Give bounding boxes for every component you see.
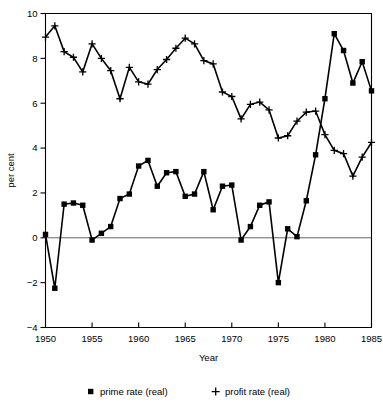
- data-point-square: [71, 200, 76, 205]
- y-tick-label: −2: [27, 277, 38, 288]
- data-point-square: [80, 203, 85, 208]
- data-point-square: [117, 196, 122, 201]
- data-point-square: [238, 237, 243, 242]
- data-point-square: [155, 184, 160, 189]
- y-axis-title: per cent: [5, 153, 16, 188]
- data-point-square: [248, 224, 253, 229]
- data-point-square: [183, 194, 188, 199]
- chart-svg: −4−20246810 1950195519601965197019751980…: [0, 0, 383, 410]
- data-point-square: [304, 198, 309, 203]
- data-point-square: [61, 201, 66, 206]
- data-point-square: [257, 203, 262, 208]
- data-point-square: [341, 48, 346, 53]
- data-point-square: [164, 170, 169, 175]
- data-point-square: [276, 280, 281, 285]
- data-point-square: [108, 224, 113, 229]
- x-tick-label: 1960: [128, 333, 149, 344]
- y-tick-label: 6: [32, 98, 37, 109]
- legend-label: prime rate (real): [100, 386, 168, 397]
- x-tick-label: 1970: [221, 333, 242, 344]
- x-tick-label: 1950: [35, 333, 56, 344]
- data-point-square: [266, 199, 271, 204]
- chart-figure: −4−20246810 1950195519601965197019751980…: [0, 0, 383, 410]
- data-point-square: [201, 169, 206, 174]
- data-point-square: [359, 59, 364, 64]
- x-tick-label: 1955: [82, 333, 103, 344]
- y-tick-label: 0: [32, 232, 37, 243]
- data-point-square: [220, 184, 225, 189]
- data-point-square: [136, 163, 141, 168]
- data-point-square: [99, 231, 104, 236]
- x-axis-title: Year: [199, 352, 218, 363]
- data-point-square: [350, 80, 355, 85]
- data-point-square: [192, 191, 197, 196]
- data-point-square: [89, 237, 94, 242]
- x-tick-label: 1975: [268, 333, 289, 344]
- square-marker-icon: [88, 389, 93, 394]
- data-point-square: [285, 226, 290, 231]
- data-point-square: [294, 234, 299, 239]
- y-tick-label: 2: [32, 187, 37, 198]
- data-point-square: [145, 158, 150, 163]
- y-tick-label: 10: [27, 8, 38, 19]
- chart-background: [0, 0, 383, 410]
- y-tick-label: 8: [32, 53, 37, 64]
- data-point-square: [229, 182, 234, 187]
- y-tick-label: −4: [27, 322, 38, 333]
- data-point-square: [43, 232, 48, 237]
- data-point-square: [313, 152, 318, 157]
- data-point-square: [322, 96, 327, 101]
- legend-label: profit rate (real): [225, 386, 290, 397]
- data-point-square: [332, 31, 337, 36]
- data-point-square: [210, 207, 215, 212]
- x-tick-label: 1965: [175, 333, 196, 344]
- data-point-square: [52, 286, 57, 291]
- data-point-square: [127, 191, 132, 196]
- x-tick-label: 1980: [314, 333, 335, 344]
- x-tick-label: 1985: [361, 333, 382, 344]
- y-tick-label: 4: [32, 142, 37, 153]
- data-point-square: [173, 169, 178, 174]
- data-point-square: [369, 88, 374, 93]
- legend-item: prime rate (real): [88, 386, 168, 397]
